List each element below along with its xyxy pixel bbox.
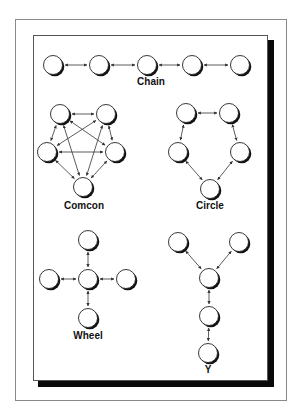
label-y: Y xyxy=(205,365,212,375)
circle-node xyxy=(231,143,252,164)
circle-node xyxy=(177,104,198,125)
circle-edge xyxy=(180,125,183,140)
comcon-edge xyxy=(109,126,112,141)
label-wheel: Wheel xyxy=(73,331,102,341)
y-edge xyxy=(186,251,201,269)
comcon-edge xyxy=(91,161,107,178)
circle-node xyxy=(201,180,222,201)
comcon-node xyxy=(51,105,72,126)
label-circle: Circle xyxy=(196,201,224,211)
y-node xyxy=(169,233,190,254)
y-node xyxy=(200,307,221,328)
y-node xyxy=(199,344,220,365)
circle-edge xyxy=(186,161,202,180)
wheel-node xyxy=(40,270,61,291)
comcon-node xyxy=(97,105,118,126)
y-node xyxy=(230,233,251,254)
wheel-node xyxy=(117,270,138,291)
circle-node xyxy=(169,143,190,164)
comcon-node xyxy=(106,143,127,164)
y-node xyxy=(200,269,221,290)
label-comcon: Comcon xyxy=(64,201,104,211)
comcon-node xyxy=(74,178,95,199)
chain-node xyxy=(44,56,65,77)
y-edge xyxy=(217,251,232,269)
chain-node xyxy=(138,56,159,77)
wheel-node xyxy=(79,309,100,330)
chain-node xyxy=(90,56,111,77)
circle-edge xyxy=(218,161,233,179)
comcon-edge xyxy=(56,160,75,178)
wheel-node xyxy=(79,270,100,291)
comcon-edge xyxy=(51,125,56,140)
chain-node xyxy=(231,56,252,77)
network-diagram xyxy=(0,0,294,410)
circle-node xyxy=(220,104,241,125)
circle-edge xyxy=(232,125,236,141)
comcon-node xyxy=(38,143,59,164)
label-chain: Chain xyxy=(137,77,165,87)
wheel-node xyxy=(79,231,100,252)
chain-node xyxy=(183,56,204,77)
